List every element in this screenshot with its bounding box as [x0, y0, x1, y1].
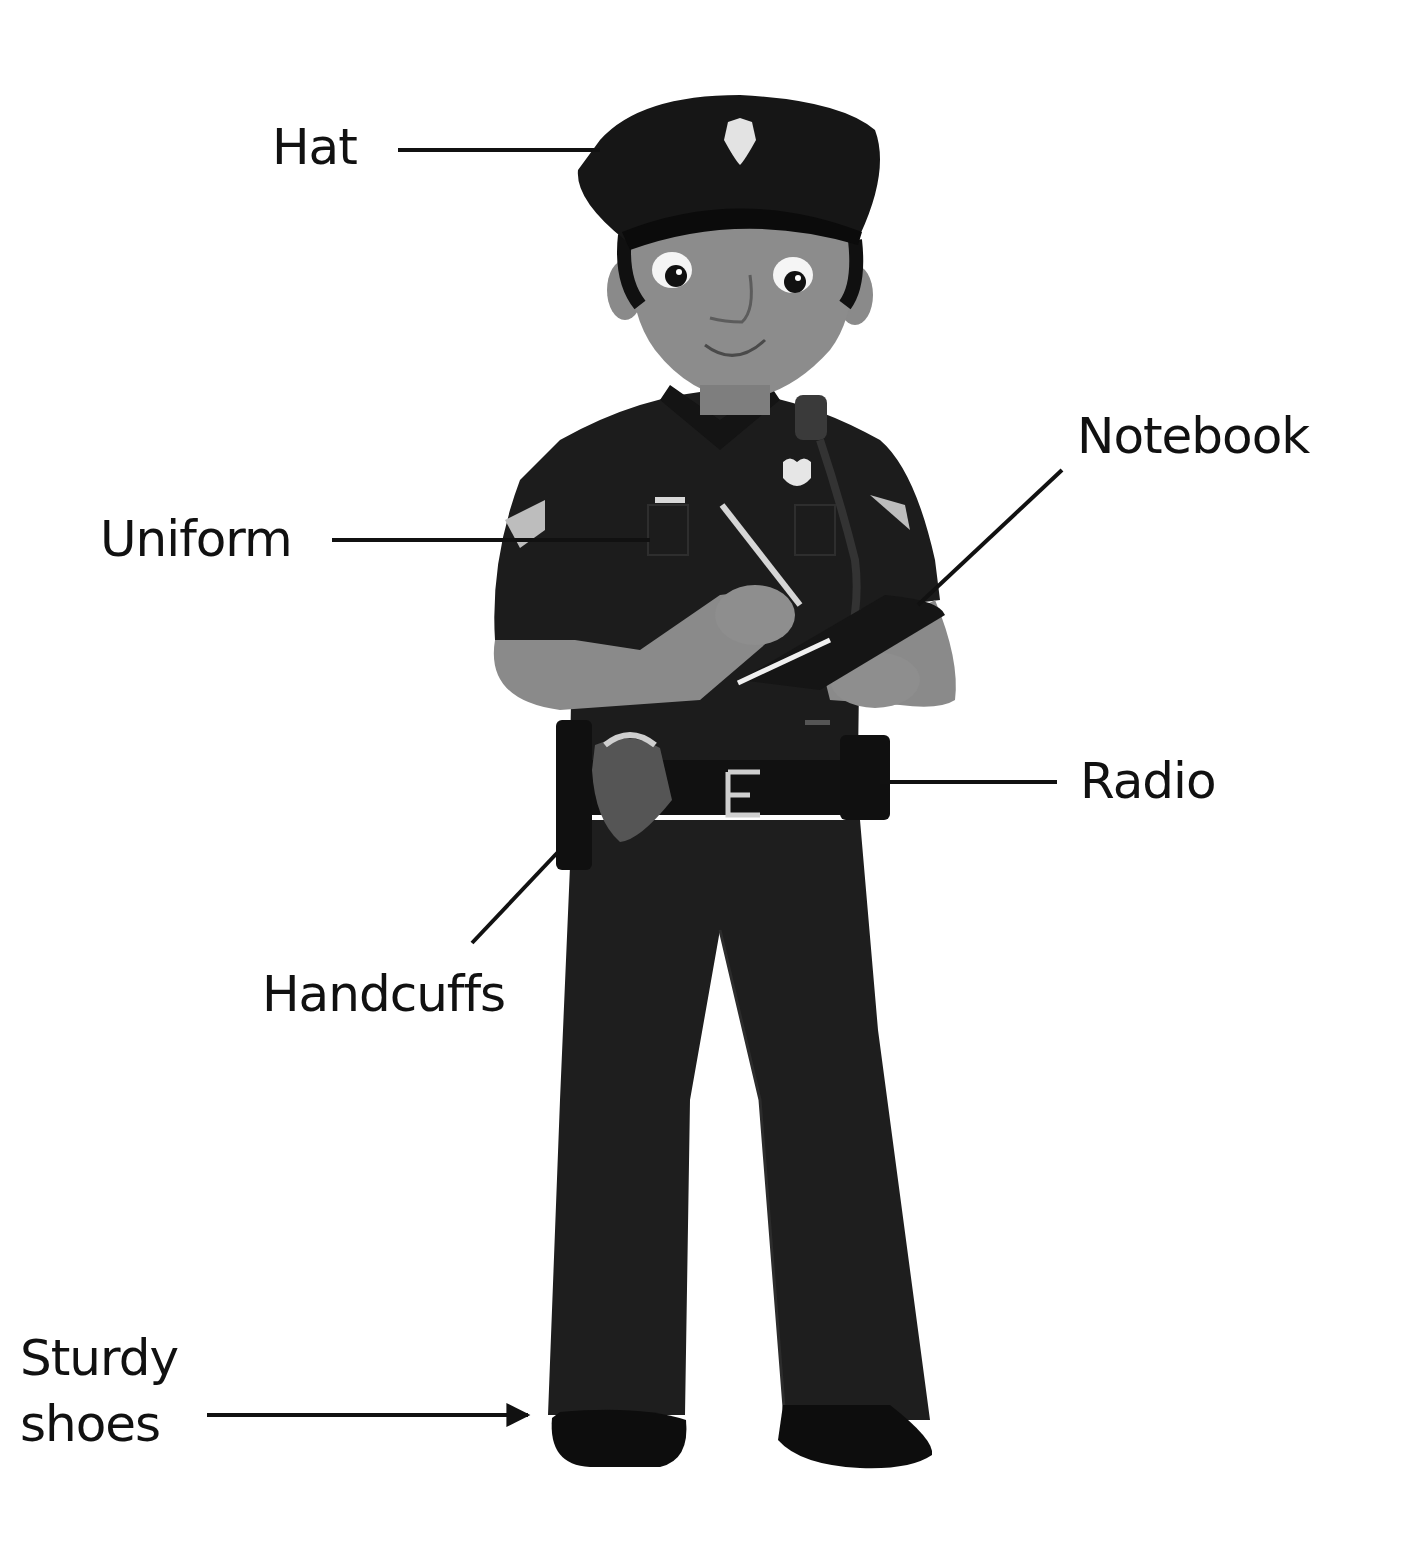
head	[607, 217, 873, 415]
handcuffs-leader-line	[472, 852, 558, 943]
police-officer-diagram: Hat Uniform Notebook Radio Handcuffs Stu…	[0, 0, 1415, 1549]
label-radio: Radio	[1080, 752, 1216, 810]
label-hat: Hat	[272, 118, 357, 176]
label-uniform: Uniform	[100, 510, 292, 568]
hat	[578, 95, 880, 250]
label-notebook: Notebook	[1077, 407, 1309, 465]
label-sturdy-shoes: Sturdy shoes	[20, 1325, 178, 1457]
trousers	[548, 820, 930, 1420]
notebook-leader-line	[918, 470, 1062, 605]
shoes	[552, 1405, 933, 1468]
label-handcuffs: Handcuffs	[262, 965, 505, 1023]
